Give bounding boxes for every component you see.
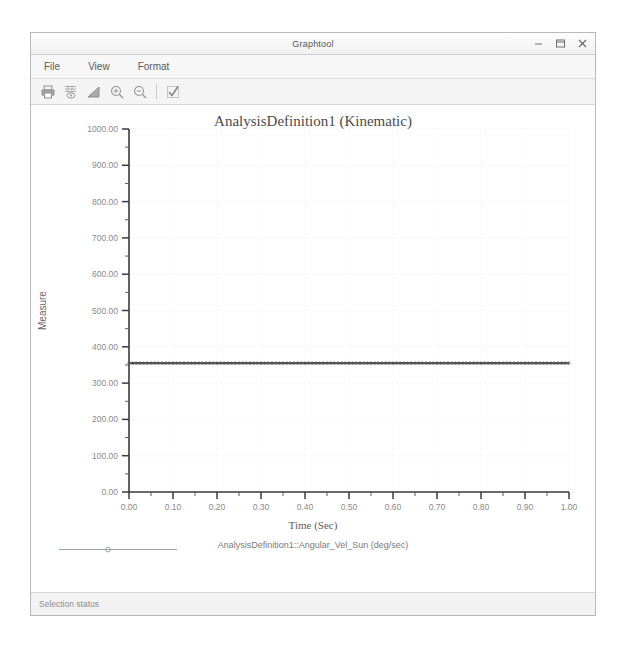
screen: Graphtool File View Format (0, 0, 625, 647)
y-tick-label: 100.00 (92, 451, 118, 461)
x-tick-label: 0.20 (205, 502, 229, 512)
checkmark-icon[interactable] (163, 82, 183, 101)
y-tick-label: 500.00 (92, 306, 118, 316)
tool-bar (31, 79, 595, 105)
print-icon[interactable] (38, 82, 58, 101)
y-tick-label: 300.00 (92, 378, 118, 388)
close-button[interactable] (576, 37, 589, 50)
window-controls (532, 33, 589, 54)
chart-icon[interactable] (84, 82, 104, 101)
legend-entry-label: AnalysisDefinition1::Angular_Vel_Sun (de… (31, 540, 595, 550)
x-tick-label: 0.60 (381, 502, 405, 512)
x-tick-label: 0.80 (469, 502, 493, 512)
menu-item-format[interactable]: Format (135, 59, 173, 74)
x-tick-label: 0.40 (293, 502, 317, 512)
y-tick-label: 900.00 (92, 160, 118, 170)
zoom-in-icon[interactable] (107, 82, 127, 101)
chart-canvas[interactable]: AnalysisDefinition1 (Kinematic) Measure … (31, 105, 595, 592)
menu-item-view[interactable]: View (85, 59, 113, 74)
y-tick-label: 400.00 (92, 342, 118, 352)
x-tick-label: 0.10 (161, 502, 185, 512)
maximize-button[interactable] (554, 37, 567, 50)
y-tick-label: 200.00 (92, 414, 118, 424)
x-tick-label: 0.30 (249, 502, 273, 512)
y-tick-label: 700.00 (92, 233, 118, 243)
status-bar: Selection status (31, 592, 595, 615)
title-bar: Graphtool (31, 33, 595, 55)
menu-bar: File View Format (31, 55, 595, 79)
x-tick-label: 0.90 (513, 502, 537, 512)
table-data-icon[interactable] (61, 82, 81, 101)
zoom-out-icon[interactable] (130, 82, 150, 101)
toolbar-separator (156, 84, 157, 99)
y-tick-label: 600.00 (92, 269, 118, 279)
y-tick-label: 800.00 (92, 197, 118, 207)
x-tick-label: 0.70 (425, 502, 449, 512)
minimize-button[interactable] (532, 37, 545, 50)
x-tick-label: 0.00 (117, 502, 141, 512)
y-tick-label: 0.00 (101, 487, 118, 497)
menu-item-file[interactable]: File (41, 59, 63, 74)
x-tick-label: 1.00 (557, 502, 581, 512)
x-tick-label: 0.50 (337, 502, 361, 512)
window-title: Graphtool (292, 39, 333, 49)
y-tick-label: 1000.00 (87, 124, 118, 134)
status-text: Selection status (39, 599, 99, 609)
graphtool-window: Graphtool File View Format (30, 32, 596, 616)
